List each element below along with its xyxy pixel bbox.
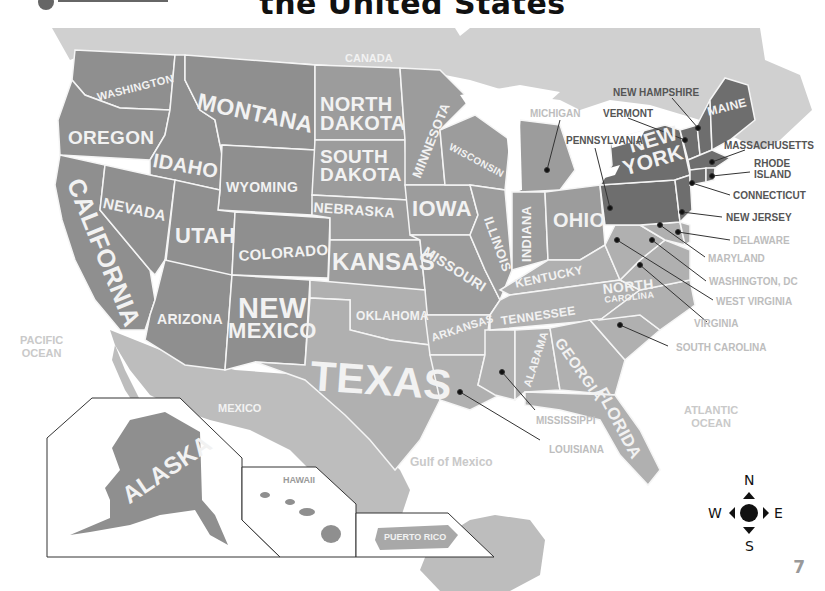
label-south-dakota: SOUTH DAKOTA xyxy=(320,148,402,184)
callout-mississippi: MISSISSIPPI xyxy=(536,415,595,426)
callout-washington-dc: WASHINGTON, DC xyxy=(709,276,798,287)
compass-south: S xyxy=(745,538,754,554)
label-north-dakota: NORTH DAKOTA xyxy=(320,95,406,133)
callout-louisiana: LOUISIANA xyxy=(549,444,604,455)
callout-west-virginia: WEST VIRGINIA xyxy=(716,296,792,307)
label-wyoming: WYOMING xyxy=(226,180,298,194)
pacific-line1: PACIFIC xyxy=(20,334,63,347)
label-mexico: MEXICO xyxy=(218,402,261,415)
callout-maryland: MARYLAND xyxy=(708,253,765,264)
callout-south-carolina: SOUTH CAROLINA xyxy=(676,342,767,353)
label-new-mexico: NEW MEXICO xyxy=(228,295,317,341)
state-michigan xyxy=(515,120,575,192)
us-map-page: the United States xyxy=(0,0,825,591)
label-gulf-of-mexico: Gulf of Mexico xyxy=(410,455,493,469)
label-hawaii: HAWAII xyxy=(283,476,315,486)
callout-vermont: VERMONT xyxy=(603,108,653,119)
state-pennsylvania xyxy=(600,180,680,225)
callout-virginia: VIRGINIA xyxy=(694,318,738,329)
label-arizona: ARIZONA xyxy=(157,312,223,326)
callout-rhode-island: RHODE ISLAND xyxy=(754,158,791,180)
ri-line2: ISLAND xyxy=(754,169,791,180)
state-florida xyxy=(525,392,660,485)
label-kansas: KANSAS xyxy=(332,250,435,274)
callout-new-hampshire: NEW HAMPSHIRE xyxy=(613,87,699,98)
label-atlantic-ocean: ATLANTIC OCEAN xyxy=(684,404,738,430)
label-ohio: OHIO xyxy=(553,210,605,230)
callout-massachusetts: MASSACHUSETTS xyxy=(724,140,814,151)
atlantic-line2: OCEAN xyxy=(684,417,738,430)
label-canada: CANADA xyxy=(345,52,393,65)
label-iowa: IOWA xyxy=(412,198,472,220)
label-utah: UTAH xyxy=(175,225,236,247)
nd-line2: DAKOTA xyxy=(320,114,406,133)
label-oregon: OREGON xyxy=(68,128,154,147)
sd-line2: DAKOTA xyxy=(320,166,402,184)
compass-rose xyxy=(729,492,769,534)
callout-new-jersey: NEW JERSEY xyxy=(726,212,792,223)
callout-michigan: MICHIGAN xyxy=(530,108,581,119)
new-mexico-line2: MEXICO xyxy=(228,321,317,341)
callout-delaware: DELAWARE xyxy=(733,235,790,246)
ri-line1: RHODE xyxy=(754,158,791,169)
label-north-carolina: NORTH CAROLINA xyxy=(602,278,655,304)
label-texas: TEXAS xyxy=(309,355,453,407)
callout-connecticut: CONNECTICUT xyxy=(733,190,806,201)
atlantic-line1: ATLANTIC xyxy=(684,404,738,417)
label-pacific-ocean: PACIFIC OCEAN xyxy=(20,334,63,360)
pacific-line2: OCEAN xyxy=(20,347,63,360)
page-number: 7 xyxy=(793,557,805,577)
compass-north: N xyxy=(744,472,754,488)
label-oklahoma: OKLAHOMA xyxy=(356,310,429,322)
label-puerto-rico: PUERTO RICO xyxy=(384,533,446,543)
callout-pennsylvania: PENNSYLVANIA xyxy=(566,135,643,146)
label-indiana: INDIANA xyxy=(520,206,533,262)
compass-west: W xyxy=(708,505,722,521)
compass-east: E xyxy=(774,505,783,521)
